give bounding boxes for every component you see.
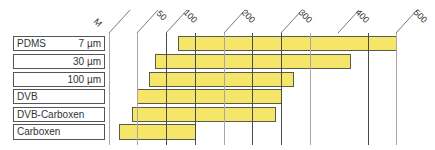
row-label-name: PDMS	[17, 37, 46, 50]
row-label-pdms-100um: 100 µm	[13, 72, 105, 87]
tick-label-200: 200	[240, 7, 258, 25]
row-label-name: Carboxen	[17, 125, 60, 138]
bar-carboxen	[119, 124, 196, 140]
tick-label-400: 400	[354, 7, 372, 25]
tick-label-500: 500	[412, 7, 430, 25]
bar-dvb-carboxen	[132, 107, 276, 122]
gridline-450	[368, 33, 369, 145]
gridline-300	[281, 33, 282, 145]
tick-label-100: 100	[182, 7, 200, 25]
gridline-250	[252, 33, 253, 145]
row-label-size: 100 µm	[67, 73, 101, 86]
row-label-dvb: DVB	[13, 89, 105, 104]
row-label-carboxen: Carboxen	[13, 124, 105, 140]
axis-label-m: M	[92, 16, 104, 28]
tick-label-50: 50	[155, 8, 169, 22]
gridline-50	[137, 33, 138, 145]
gridline-150	[195, 33, 196, 145]
gridline-350	[310, 33, 311, 145]
tick-label-300: 300	[297, 7, 315, 25]
row-label-size: 30 µm	[73, 55, 101, 68]
row-label-size: 7 µm	[79, 37, 101, 50]
gridline-m	[109, 33, 110, 145]
gridline-500	[396, 33, 397, 145]
row-label-pdms-7um: PDMS 7 µm	[13, 36, 105, 51]
gridline-200	[224, 33, 225, 145]
bar-pdms-7um	[178, 36, 397, 51]
row-label-dvb-carboxen: DVB-Carboxen	[13, 107, 105, 122]
row-label-name: DVB-Carboxen	[17, 108, 84, 121]
bar-pdms-100um	[149, 72, 294, 87]
gridline-100	[166, 33, 167, 145]
row-label-pdms-30um: 30 µm	[13, 54, 105, 69]
bar-dvb	[137, 89, 282, 104]
fiber-coating-range-chart: M 50 100 200 300 400 500 PDMS 7 µm 30 µm…	[0, 0, 435, 150]
bar-pdms-30um	[155, 54, 351, 69]
row-label-name: DVB	[17, 90, 38, 103]
